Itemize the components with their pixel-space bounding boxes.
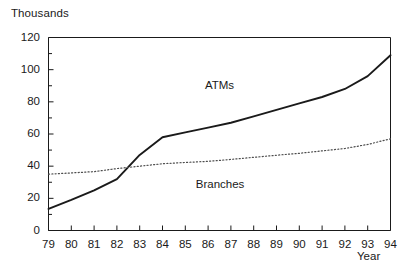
x-axis-title: Year (357, 250, 380, 262)
x-axis-tick-label: 87 (219, 239, 243, 251)
y-axis-tick-label: 100 (8, 64, 40, 76)
y-axis-tick-label: 40 (8, 160, 40, 172)
x-axis-tick-label: 90 (287, 239, 311, 251)
y-axis-tick-label: 60 (8, 128, 40, 140)
plot-area (0, 0, 414, 270)
chart-container: Thousands 020406080100120798081828384858… (0, 0, 414, 270)
x-axis-tick-label: 86 (196, 239, 220, 251)
x-axis-tick-label: 93 (356, 239, 380, 251)
x-axis-tick-label: 94 (379, 239, 403, 251)
x-axis-tick-label: 79 (37, 239, 61, 251)
x-axis-tick-label: 89 (265, 239, 289, 251)
x-axis-tick-label: 91 (310, 239, 334, 251)
plot-frame (49, 38, 391, 231)
y-axis-tick-label: 20 (8, 192, 40, 204)
x-axis-tick-label: 85 (173, 239, 197, 251)
y-axis-tick-label: 80 (8, 96, 40, 108)
series-label-atms: ATMs (205, 79, 234, 91)
y-axis-tick-label: 0 (8, 225, 40, 237)
x-axis-tick-label: 82 (105, 239, 129, 251)
x-axis-tick-label: 83 (128, 239, 152, 251)
y-axis-tick-label: 120 (8, 32, 40, 44)
series-label-branches: Branches (196, 178, 245, 190)
x-axis-tick-label: 84 (151, 239, 175, 251)
series-line-branches (49, 139, 391, 174)
x-axis-tick-label: 88 (242, 239, 266, 251)
x-axis-tick-label: 80 (59, 239, 83, 251)
x-axis-tick-label: 92 (333, 239, 357, 251)
x-axis-tick-label: 81 (82, 239, 106, 251)
